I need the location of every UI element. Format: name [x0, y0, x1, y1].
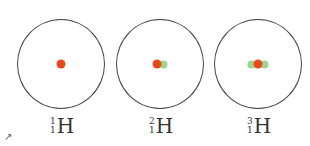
element-symbol: H: [254, 114, 271, 138]
nucleus: [248, 60, 269, 69]
proton: [57, 60, 66, 69]
arrow-mark-icon: ↗: [4, 131, 12, 142]
nucleus: [57, 60, 66, 69]
atom-tritium: [214, 19, 302, 109]
atomic-number: 1: [149, 126, 155, 135]
label-deuterium: 21 H: [131, 114, 191, 138]
atom-protium: [17, 19, 105, 109]
proton: [153, 60, 162, 69]
label-protium: 11 H: [32, 114, 92, 138]
element-symbol: H: [57, 114, 74, 138]
atomic-number: 1: [247, 126, 253, 135]
label-tritium: 31 H: [229, 114, 289, 138]
proton: [254, 60, 263, 69]
element-symbol: H: [156, 114, 173, 138]
nucleus: [153, 60, 168, 69]
atomic-number: 1: [50, 126, 56, 135]
atom-deuterium: [116, 19, 204, 109]
